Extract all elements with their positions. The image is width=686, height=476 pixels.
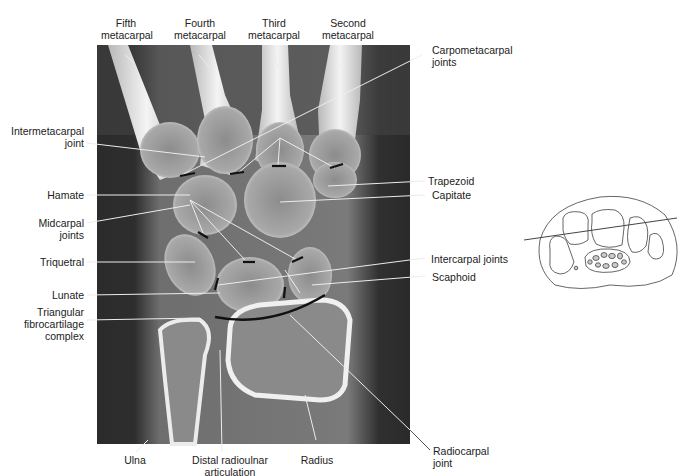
label-lunate: Lunate — [0, 289, 84, 301]
capitate-bone — [244, 162, 316, 238]
label-triangular-fibrocartilage-complex: Triangular fibrocartilage complex — [0, 306, 84, 342]
label-ulna: Ulna — [120, 454, 150, 466]
hamate-bone — [173, 175, 237, 235]
inset-slice-plane-line — [524, 218, 677, 240]
label-intercarpal-joints: Intercarpal joints — [431, 253, 508, 265]
label-intermetacarpal-joint: Intermetacarpal joint — [0, 125, 84, 149]
axial-orientation-inset — [524, 196, 677, 288]
label-radiocarpal-joint: Radiocarpal joint — [433, 445, 489, 469]
label-midcarpal-joints: Midcarpal joints — [0, 217, 84, 241]
label-trapezoid: Trapezoid — [428, 175, 474, 187]
inset-tendons — [588, 253, 627, 269]
label-capitate: Capitate — [432, 189, 471, 201]
ct-scan-image — [97, 45, 410, 444]
label-radius: Radius — [295, 454, 339, 466]
label-triquetral: Triquetral — [0, 256, 84, 268]
label-second-metacarpal: Second metacarpal — [320, 17, 376, 41]
label-distal-radioulnar-articulation: Distal radioulnar articulation — [185, 454, 275, 476]
label-carpometacarpal-joints: Carpometacarpal joints — [432, 44, 513, 68]
label-fourth-metacarpal: Fourth metacarpal — [172, 17, 228, 41]
label-third-metacarpal: Third metacarpal — [246, 17, 302, 41]
label-hamate: Hamate — [0, 189, 84, 201]
label-scaphoid: Scaphoid — [432, 271, 476, 283]
wrist-ct-figure: Fifth metacarpal Fourth metacarpal Third… — [0, 0, 686, 476]
label-fifth-metacarpal: Fifth metacarpal — [101, 17, 151, 41]
radius-bone — [228, 300, 350, 400]
ct-image-and-leaders — [0, 0, 686, 476]
